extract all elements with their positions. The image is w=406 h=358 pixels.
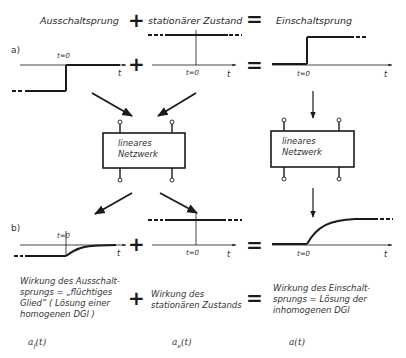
header-ausschaltsprung: Ausschaltsprung [40, 15, 119, 26]
function-stationary: ae(t) [172, 337, 192, 349]
arrow-network-to-middle-b [160, 193, 197, 213]
plot-a-middle-t0: t=0 [186, 69, 199, 77]
row-a-plus: + [128, 54, 145, 74]
header-einschaltsprung: Einschaltsprung [276, 15, 352, 26]
plot-a-right-t: t [384, 70, 387, 79]
plot-a-right-t0: t=0 [297, 70, 310, 78]
description-step-response: Wirkung des Einschalt- sprungs = Lösung … [273, 283, 370, 316]
function-transient: af(t) [28, 337, 46, 349]
network-right-label: lineares Netzwerk [282, 136, 322, 158]
header-plus: + [128, 10, 145, 30]
plot-b-middle-t0: t=0 [186, 249, 199, 257]
row-b-plus: + [128, 234, 145, 254]
plot-a-right [272, 37, 392, 65]
description-transient: Wirkung des Ausschalt- sprungs = „flücht… [20, 276, 120, 320]
row-b-equals: = [246, 235, 263, 255]
function-step-response: a(t) [289, 337, 305, 347]
description-plus: + [128, 288, 145, 308]
plot-b-middle [148, 213, 242, 245]
plot-b-middle-t: t [227, 250, 230, 259]
network-left-label: lineares Netzwerk [118, 138, 158, 160]
arrow-middle-to-network [158, 93, 196, 116]
plot-a-left-t0: t=0 [57, 52, 70, 60]
arrow-left-to-network [92, 93, 132, 116]
plot-a-left [12, 65, 126, 91]
plot-a-left-t: t [118, 69, 121, 78]
plot-b-left-t0: t=0 [57, 232, 70, 240]
plot-a-middle [148, 30, 242, 65]
plot-b-left-t: t [117, 249, 120, 258]
row-b-label: b) [11, 223, 20, 233]
description-stationary: Wirkung des stationären Zustands [151, 289, 242, 311]
arrow-network-to-left-b [95, 193, 132, 214]
description-equals: = [246, 288, 263, 308]
plot-b-right-t0: t=0 [297, 250, 310, 258]
row-a-equals: = [246, 55, 263, 75]
header-equals: = [246, 9, 263, 29]
header-stationaerer-zustand: stationärer Zustand [148, 15, 242, 26]
plot-b-right-t: t [384, 250, 387, 259]
plot-b-right [272, 219, 393, 245]
plot-a-middle-t: t [227, 70, 230, 79]
row-a-label: a) [11, 45, 20, 55]
